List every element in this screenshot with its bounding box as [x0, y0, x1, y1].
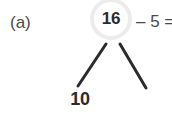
branch-left-line [78, 44, 106, 86]
equation-text: – 5 = [136, 11, 172, 33]
number-bond-worksheet: (a) 16 – 5 = 10 [0, 0, 172, 118]
parent-node-value: 16 [90, 0, 132, 40]
child-node-left-value[interactable]: 10 [52, 88, 108, 110]
branch-right-line [120, 44, 146, 88]
